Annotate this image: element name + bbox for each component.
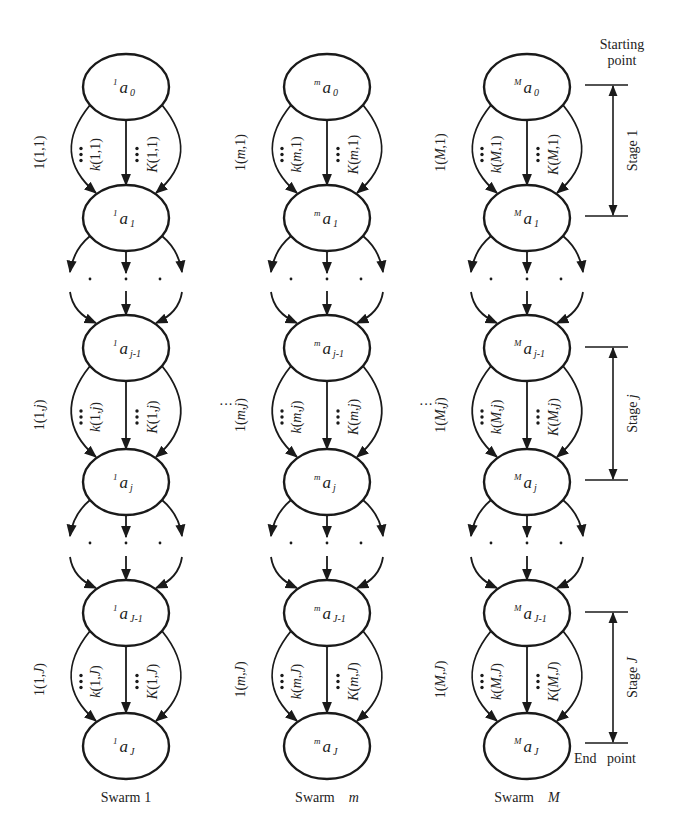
edge-label-first: 1(M,1) [433,133,449,172]
ellipsis-dots-row [490,542,563,545]
vertical-ellipsis-icon [79,147,82,162]
vertical-ellipsis-icon [79,674,82,689]
starting-point-label-line2: point [608,53,637,68]
edge-label-K: K(1,j) [145,400,161,434]
stage-label: Stage J [625,656,640,698]
stage-edges-3: 1(m,J)k(m,J)K(m,J) [233,631,382,721]
end-point-label: End point [574,751,636,766]
edge-label-first: 1(1,1) [32,135,48,169]
ellipsis-dots-row [290,542,363,545]
edge-label-K: K(m,J) [346,662,362,702]
edge-label-first: 1(M,j) [433,397,449,433]
node-a-M-J: MaJ [484,713,570,779]
vertical-ellipsis-icon [280,674,283,689]
vertical-ellipsis-icon [280,409,283,424]
edge-label-K: K(m,j) [346,399,362,437]
node-a-M-1: Ma1 [484,185,570,251]
vertical-ellipsis-icon [480,409,483,424]
swarm-1: 1(1,1)k(1,1)K(1,1)1(1,j)k(1,j)K(1,j)1(1,… [32,54,182,805]
stage-edges-2: 1(M,j)k(M,j)K(M,j) [433,366,582,457]
swarm-m: 1(m,1)k(m,1)K(m,1)1(m,j)k(m,j)K(m,j)1(m,… [233,54,383,805]
stage-edges-3: 1(1,J)k(1,J)K(1,J) [32,631,181,721]
edge-label-k: k(m,J) [289,663,305,699]
edge-label-k: k(1,1) [88,138,104,171]
edge-label-first: 1(M,J) [433,660,449,698]
stage-annotations: Stage 1Stage jStage JStartingpointEnd po… [574,37,644,766]
vertical-ellipsis-icon [536,674,539,689]
node-a-M-j: Maj [484,449,570,515]
stage-edges-1: 1(M,1)k(M,1)K(M,1) [433,105,582,193]
stage-edges-1: 1(m,1)k(m,1)K(m,1) [233,105,382,193]
starting-point-label-line1: Starting [600,37,644,52]
edge-label-K: K(M,1) [546,134,562,176]
edge-label-K: K(m,1) [346,135,362,176]
ellipsis-dots-row [290,278,363,281]
vertical-ellipsis-icon [79,409,82,424]
stage-edges-2: 1(m,j)k(m,j)K(m,j) [233,366,382,457]
vertical-ellipsis-icon [135,674,138,689]
node-a-m-j-1: maj-1 [284,315,370,381]
node-a-m-j: maj [284,449,370,515]
vertical-ellipsis-icon [280,147,283,162]
vertical-ellipsis-icon [135,147,138,162]
vertical-ellipsis-icon [336,409,339,424]
stage-label: Stage 1 [625,130,640,172]
node-a-1-J-1: 1aJ-1 [83,580,169,646]
stage-bracket-3: Stage J [585,612,640,743]
vertical-ellipsis-icon [135,409,138,424]
stage-edges-2: 1(1,j)k(1,j)K(1,j) [32,366,181,457]
vertical-ellipsis-icon [536,409,539,424]
edge-label-k: k(M,1) [489,135,505,173]
stage-edges-3: 1(M,J)k(M,J)K(M,J) [433,631,582,721]
edge-label-first: 1(m,j) [233,398,249,432]
vertical-ellipsis-icon [336,147,339,162]
edge-label-first: 1(m,J) [233,661,249,698]
node-a-1-j-1: 1aj-1 [83,315,169,381]
ellipsis-dots-row [89,278,162,281]
swarm-M: 1(M,1)k(M,1)K(M,1)1(M,j)k(M,j)K(M,j)1(M,… [433,54,583,805]
stage-bracket-1: Stage 1 [585,85,640,216]
edge-label-first: 1(m,1) [233,134,249,171]
edge-label-K: K(M,j) [546,398,562,437]
vertical-ellipsis-icon [480,147,483,162]
swarm-caption: SwarmM [494,790,561,805]
edge-label-k: k(m,j) [289,400,305,433]
edge-label-first: 1(1,J) [32,663,48,696]
edge-label-k: k(M,J) [489,663,505,700]
node-a-1-j: 1aj [83,449,169,515]
node-a-1-1: 1a1 [83,185,169,251]
node-a-M-j-1: Maj-1 [484,315,570,381]
swarm-gap-ellipsis: ··· [219,397,233,412]
vertical-ellipsis-icon [336,674,339,689]
node-a-M-0: Ma0 [484,54,570,120]
node-a-1-J: 1aJ [83,713,169,779]
swarm-gap-ellipsis: ··· [419,397,433,412]
node-a-m-J: maJ [284,713,370,779]
node-a-m-0: ma0 [284,54,370,120]
vertical-ellipsis-icon [480,674,483,689]
swarm-stage-diagram: 1(1,1)k(1,1)K(1,1)1(1,j)k(1,j)K(1,j)1(1,… [0,0,676,831]
edge-label-k: k(1,J) [88,665,104,698]
edge-label-k: k(1,j) [88,402,104,432]
edge-label-K: K(1,J) [145,663,161,700]
vertical-ellipsis-icon [536,147,539,162]
edge-label-K: K(1,1) [145,136,161,174]
node-a-m-1: ma1 [284,185,370,251]
stage-bracket-2: Stage j [585,347,640,480]
stage-label: Stage j [625,394,640,433]
node-a-M-J-1: MaJ-1 [484,580,570,646]
edge-label-K: K(M,J) [546,661,562,702]
swarm-caption: Swarmm [295,790,359,805]
swarm-columns: 1(1,1)k(1,1)K(1,1)1(1,j)k(1,j)K(1,j)1(1,… [32,54,583,805]
ellipsis-dots-row [490,278,563,281]
stage-edges-1: 1(1,1)k(1,1)K(1,1) [32,105,181,193]
edge-label-k: k(M,j) [489,399,505,434]
edge-label-first: 1(1,j) [32,399,48,430]
node-a-m-J-1: maJ-1 [284,580,370,646]
node-a-1-0: 1a0 [83,54,169,120]
swarm-caption: Swarm1 [101,790,152,805]
ellipsis-dots-row [89,542,162,545]
edge-label-k: k(m,1) [289,136,305,173]
